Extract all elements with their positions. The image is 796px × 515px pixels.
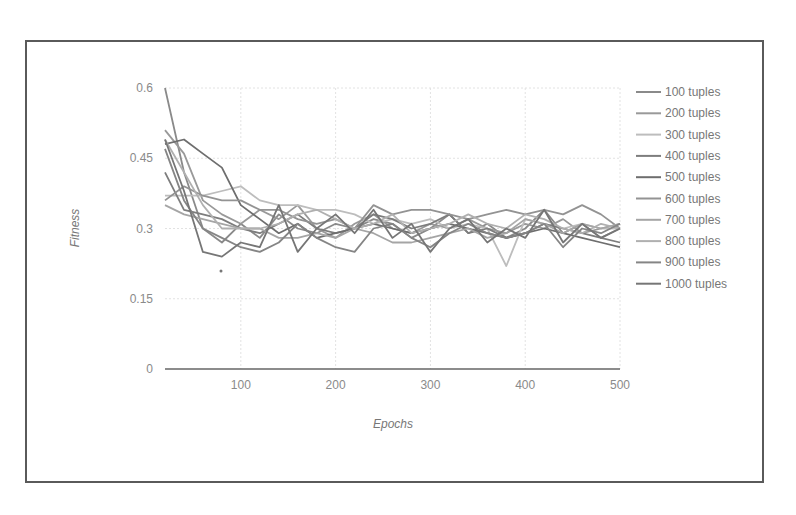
legend-label: 600 tuples [665, 192, 720, 206]
legend: 100 tuples200 tuples300 tuples400 tuples… [636, 85, 727, 291]
x-tick-label: 100 [231, 378, 251, 392]
legend-label: 800 tuples [665, 234, 720, 248]
legend-label: 200 tuples [665, 106, 720, 120]
x-tick-label: 400 [515, 378, 535, 392]
x-tick-label: 200 [326, 378, 346, 392]
y-tick-label: 0 [146, 362, 153, 376]
x-axis-title: Epochs [373, 417, 413, 431]
x-axis-ticks: 100200300400500 [231, 378, 631, 392]
series-line [165, 140, 620, 257]
series-lines [165, 88, 620, 266]
line-chart: 00.150.30.450.6 100200300400500 Epochs F… [0, 0, 796, 515]
legend-label: 300 tuples [665, 128, 720, 142]
legend-label: 1000 tuples [665, 277, 727, 291]
x-tick-label: 500 [610, 378, 630, 392]
y-axis-title: Fitness [68, 209, 82, 248]
stray-dot [220, 270, 223, 273]
x-tick-label: 300 [420, 378, 440, 392]
y-tick-label: 0.6 [136, 81, 153, 95]
legend-label: 400 tuples [665, 149, 720, 163]
legend-label: 700 tuples [665, 213, 720, 227]
y-tick-label: 0.3 [136, 222, 153, 236]
y-tick-label: 0.15 [130, 292, 154, 306]
legend-label: 500 tuples [665, 170, 720, 184]
legend-label: 100 tuples [665, 85, 720, 99]
legend-label: 900 tuples [665, 255, 720, 269]
y-tick-label: 0.45 [130, 151, 154, 165]
y-axis-ticks: 00.150.30.450.6 [130, 81, 154, 376]
